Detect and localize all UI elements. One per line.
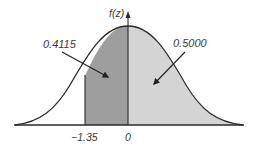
region-between-neg135-and-zero xyxy=(85,26,128,125)
area-label-left: 0.4115 xyxy=(43,38,77,50)
y-axis-label: f(z) xyxy=(109,7,124,19)
tick-label-zero: 0 xyxy=(125,131,131,143)
tick-label-neg135: −1.35 xyxy=(71,131,98,143)
area-label-right: 0.5000 xyxy=(173,37,208,49)
y-axis-arrow-icon xyxy=(126,11,131,18)
normal-curve-diagram: f(z) 0.4115 0.5000 −1.35 0 xyxy=(0,0,255,151)
